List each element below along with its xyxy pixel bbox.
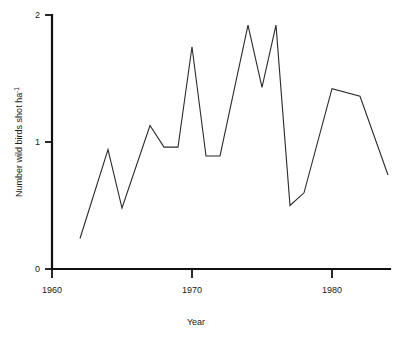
y-axis-title-exponent: -1 <box>13 87 20 93</box>
y-axis-title: Number wild birds shot ha-1 <box>13 87 24 197</box>
x-tick-label-1970: 1970 <box>182 285 202 295</box>
x-tick-label-1960: 1960 <box>42 285 62 295</box>
data-series-line <box>80 25 388 238</box>
x-tick-label-1980: 1980 <box>322 285 342 295</box>
y-tick-label-1: 1 <box>35 137 40 147</box>
y-tick-label-0: 0 <box>35 264 40 274</box>
line-chart: 2 1 0 1960 1970 1980 Year Number wild bi… <box>0 0 413 338</box>
y-tick-label-2: 2 <box>35 10 40 20</box>
chart-figure: 2 1 0 1960 1970 1980 Year Number wild bi… <box>0 0 413 338</box>
y-axis-title-group: Number wild birds shot ha-1 <box>13 87 24 197</box>
y-axis-title-text: Number wild birds shot ha <box>14 93 24 197</box>
x-axis-ticks <box>52 269 332 278</box>
x-axis-title: Year <box>187 317 205 327</box>
